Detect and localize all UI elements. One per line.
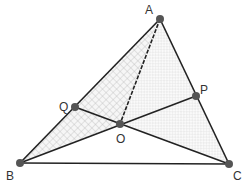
point-c: [225, 160, 233, 168]
label-c: C: [233, 169, 242, 183]
point-p: [192, 92, 200, 100]
label-a: A: [145, 3, 153, 17]
point-a: [156, 15, 164, 23]
point-q: [71, 103, 79, 111]
point-o: [116, 120, 124, 128]
triangle-cevians-diagram: A B C P Q O: [0, 0, 248, 192]
label-p: P: [200, 83, 208, 97]
point-b: [16, 159, 24, 167]
label-q: Q: [59, 100, 68, 114]
region-aoc-light: [120, 19, 229, 164]
segment-bc: [20, 163, 229, 164]
label-o: O: [116, 132, 125, 146]
label-b: B: [6, 169, 14, 183]
